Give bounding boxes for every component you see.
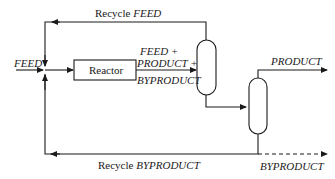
recycle-byproduct-line	[45, 74, 258, 154]
feed-label: FEED	[14, 57, 42, 69]
separator-2-vessel	[249, 78, 267, 134]
diagram-lines	[0, 0, 335, 179]
recycle-feed-label: Recycle FEED	[95, 7, 161, 19]
separator-link-line	[206, 95, 246, 107]
product-stream-line	[258, 70, 327, 78]
reactor-label: Reactor	[89, 64, 123, 76]
byproduct-label: BYPRODUCT	[260, 160, 324, 172]
separator-1-vessel	[197, 40, 216, 95]
mix-label-line2: PRODUCT +	[137, 57, 198, 69]
recycle-byproduct-label: Recycle BYPRODUCT	[98, 159, 200, 171]
mix-label-line1: FEED +	[140, 45, 178, 57]
product-label: PRODUCT	[271, 55, 322, 67]
mix-label-line3: BYPRODUCT	[137, 74, 201, 86]
process-flow-diagram: FEED Reactor Recycle FEED FEED + PRODUCT…	[0, 0, 335, 179]
